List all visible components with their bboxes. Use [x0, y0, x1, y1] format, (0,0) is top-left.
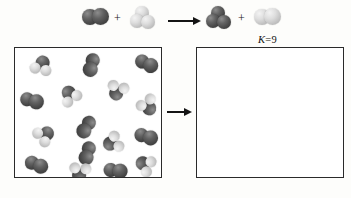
k-value: 9 [272, 34, 278, 45]
molecule-dark-diatomic [16, 89, 48, 120]
molecule-dark-diatomic [73, 49, 104, 81]
reaction-equation: + + [0, 4, 351, 36]
equilibrium-mixture-box[interactable] [196, 47, 344, 178]
atom-dark [217, 15, 231, 29]
equilibrium-constant-label: K=9 [258, 34, 277, 45]
equation-reactant-2-light-triatomic [130, 4, 164, 32]
molecule-dark-diatomic [101, 160, 131, 177]
molecule-mixed-triatomic [131, 147, 161, 177]
atom-dark [92, 8, 109, 25]
equation-product-1-dark-triatomic [206, 4, 240, 32]
molecule-mixed-triatomic [100, 72, 133, 103]
box-transition-arrow-icon [167, 108, 193, 117]
molecule-mixed-triatomic [56, 79, 91, 113]
atom-dark [111, 162, 128, 177]
initial-mixture-box [14, 47, 162, 178]
molecule-mixed-triatomic [128, 88, 161, 122]
atom-light [39, 64, 53, 78]
equation-plus-2: + [238, 11, 245, 26]
right-box-molecules [197, 48, 343, 177]
molecule-dark-diatomic [19, 152, 53, 177]
atom-light [264, 8, 281, 25]
atom-light [141, 15, 155, 29]
molecule-mixed-triatomic [27, 53, 59, 84]
equation-product-2-light-diatomic [254, 4, 288, 32]
molecule-dark-diatomic [129, 50, 161, 83]
molecule-mixed-triatomic [63, 156, 93, 177]
left-box-molecules [15, 48, 161, 177]
molecule-mixed-triatomic [27, 120, 62, 155]
equation-plus-1: + [114, 11, 121, 26]
reaction-arrow-icon [168, 17, 202, 26]
equation-reactant-1-dark-diatomic [82, 4, 116, 32]
molecule-mixed-triatomic [98, 124, 129, 157]
